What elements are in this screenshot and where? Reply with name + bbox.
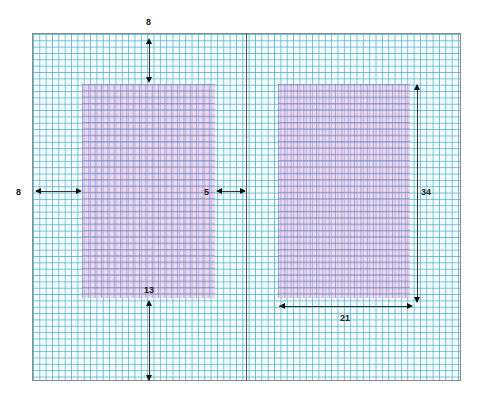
- page-width-dimension-line: [279, 306, 412, 307]
- outer-margin-dimension-line: [36, 191, 80, 192]
- arrow-down-icon: [146, 375, 152, 381]
- arrow-up-icon: [414, 84, 420, 90]
- left-page-area: [82, 84, 215, 298]
- outer-margin-label: 8: [16, 187, 21, 197]
- arrow-up-icon: [146, 38, 152, 44]
- gutter-margin-label: 5: [204, 187, 209, 197]
- page-width-label: 21: [340, 313, 350, 323]
- arrow-down-icon: [414, 297, 420, 303]
- page-height-label: 34: [421, 187, 431, 197]
- arrow-left-icon: [216, 188, 222, 194]
- arrow-right-icon: [407, 303, 413, 309]
- bottom-margin-dimension-line: [149, 302, 150, 380]
- arrow-left-icon: [279, 303, 285, 309]
- arrow-left-icon: [35, 188, 41, 194]
- arrow-right-icon: [240, 188, 246, 194]
- bottom-margin-label: 13: [144, 285, 154, 295]
- arrow-right-icon: [76, 188, 82, 194]
- page-height-dimension-line: [417, 85, 418, 302]
- right-page-area: [278, 84, 410, 298]
- arrow-up-icon: [146, 300, 152, 306]
- arrow-down-icon: [146, 77, 152, 83]
- center-fold-line: [246, 33, 247, 381]
- top-margin-label: 8: [146, 17, 151, 27]
- top-margin-dimension-line: [149, 40, 150, 81]
